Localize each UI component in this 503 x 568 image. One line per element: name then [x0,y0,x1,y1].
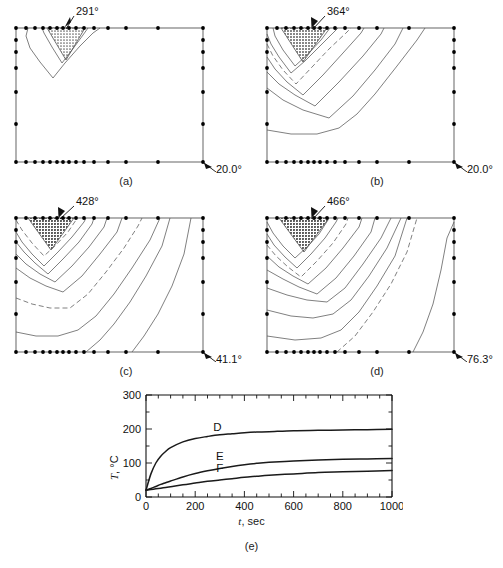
x-tick-label: 800 [334,500,352,512]
panel-c: 428° 41.1° (c) [0,190,252,380]
domain-boundary-a [16,28,203,162]
panel-a-plot [0,0,252,172]
panel-caption-d: (d) [251,365,503,377]
chart-series-curves [146,429,392,490]
panel-caption-e: (e) [100,540,403,552]
chart-y-axis-label: T, °C [108,455,120,480]
cold-temperature-label-a: 20.0° [216,163,242,175]
y-axis-units: , °C [108,455,120,473]
chart-x-axis-label: t, sec [100,515,403,527]
x-tick-label: 600 [284,500,302,512]
x-tick-label: 400 [235,500,253,512]
series-label-E: E [216,450,224,462]
x-tick-label: 200 [186,500,204,512]
chart-axes [146,395,392,497]
hot-temperature-label-b: 364° [327,5,350,17]
y-axis-symbol: T [108,474,120,480]
hot-zone-a [47,28,85,60]
hot-temperature-label-d: 466° [327,195,350,207]
figure-root: 291° 20.0° (a) [0,0,503,568]
y-tick-label: 200 [123,423,141,435]
y-tick-label: 0 [135,491,141,503]
panel-c-plot [0,190,252,362]
cold-temperature-label-c: 41.1° [216,353,242,365]
x-axis-units: , sec [241,515,264,527]
mesh-nodes-a [14,26,205,164]
panel-b: 364° 20.0° (b) [251,0,503,190]
x-tick-label: 1000 [380,500,403,512]
series-curve-F [146,470,392,490]
panel-e: 020040060080010000100200300 DEF T, °C t,… [100,385,403,568]
panel-b-plot [251,0,503,172]
cold-temperature-label-b: 20.0° [467,163,493,175]
y-tick-label: 300 [123,389,141,401]
hot-zone-d [279,218,329,252]
chart-tick-marks [146,395,392,497]
hot-temperature-label-a: 291° [76,5,99,17]
chart-tick-labels: 020040060080010000100200300 [123,389,403,512]
panel-caption-a: (a) [0,175,252,187]
hot-arrow-c [58,207,65,218]
chart-series-labels: DEF [213,421,224,473]
panel-a: 291° 20.0° (a) [0,0,252,190]
series-label-F: F [216,462,223,474]
panel-caption-b: (b) [251,175,503,187]
series-label-D: D [213,421,221,433]
panel-d-plot [251,190,503,362]
panel-caption-c: (c) [0,365,252,377]
panel-d: 466° 76.3° (d) [251,190,503,380]
contours-b [267,28,425,134]
hot-temperature-label-c: 428° [76,195,99,207]
x-tick-label: 0 [143,500,149,512]
hot-zone-c [28,218,74,250]
y-tick-label: 100 [123,457,141,469]
cold-temperature-label-d: 76.3° [467,353,493,365]
